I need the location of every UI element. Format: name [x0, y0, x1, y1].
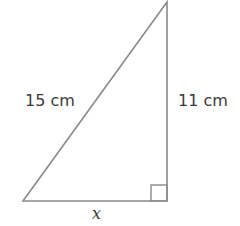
horizontal-leg-label: x [92, 204, 101, 223]
hypotenuse-label: 15 cm [25, 91, 75, 110]
triangle-diagram: 15 cm 11 cm x [0, 0, 240, 226]
right-angle-marker [151, 185, 167, 201]
vertical-leg-label: 11 cm [178, 91, 228, 110]
